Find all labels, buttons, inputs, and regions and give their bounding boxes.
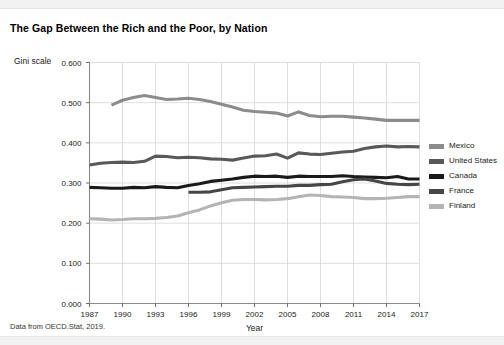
x-tick-label: 1987 — [81, 310, 99, 319]
legend-swatch-icon — [429, 144, 444, 149]
legend-item-label: Finland — [449, 202, 475, 210]
x-tick-label: 2002 — [246, 310, 264, 319]
legend-swatch-icon — [429, 159, 444, 164]
x-tick-label: 1996 — [180, 310, 198, 319]
y-tick-label: 0.500 — [48, 98, 82, 107]
legend-item-label: Canada — [449, 172, 477, 180]
legend-item-label: Mexico — [449, 142, 474, 150]
x-tick-label: 2005 — [279, 310, 297, 319]
x-tick-label: 2011 — [345, 310, 362, 319]
legend-item-label: United States — [449, 157, 497, 165]
x-tick-label: 1990 — [114, 310, 132, 319]
legend-swatch-icon — [429, 174, 444, 179]
x-tick-label: 2017 — [411, 310, 429, 319]
y-tick-label: 0.200 — [48, 219, 82, 228]
legend-item-label: France — [449, 187, 474, 195]
y-tick-label: 0.300 — [48, 179, 82, 188]
chart-card: The Gap Between the Rich and the Poor, b… — [0, 0, 504, 345]
source-note: Data from OECD.Stat, 2019. — [10, 322, 105, 331]
legend-item-finland[interactable]: Finland — [429, 199, 504, 213]
y-tick-label: 0.600 — [48, 58, 82, 67]
legend-item-united-states[interactable]: United States — [429, 154, 504, 168]
legend-swatch-icon — [429, 189, 444, 194]
legend-swatch-icon — [429, 204, 444, 209]
legend-item-canada[interactable]: Canada — [429, 169, 504, 183]
x-tick-label: 1993 — [147, 310, 165, 319]
legend-item-france[interactable]: France — [429, 184, 504, 198]
y-tick-label: 0.400 — [48, 138, 82, 147]
legend-item-mexico[interactable]: Mexico — [429, 139, 504, 153]
x-tick-label: 1999 — [213, 310, 231, 319]
x-tick-label: 2014 — [378, 310, 396, 319]
x-axis-title: Year — [246, 323, 263, 333]
chart-legend: MexicoUnited StatesCanadaFranceFinland — [429, 139, 504, 214]
x-tick-label: 2008 — [312, 310, 330, 319]
y-tick-label: 0.100 — [48, 259, 82, 268]
y-tick-label: 0.000 — [48, 299, 82, 308]
